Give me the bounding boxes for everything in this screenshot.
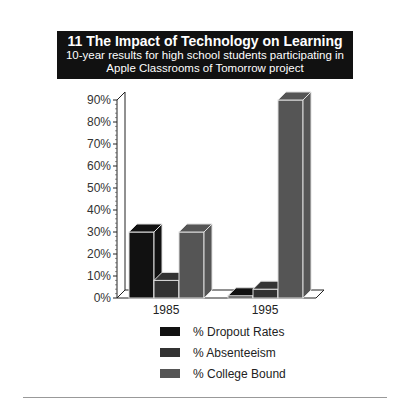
legend-swatch <box>160 369 180 378</box>
y-tick-label: 40% <box>87 203 111 217</box>
legend-label: % Absenteeism <box>193 346 276 360</box>
legend-label: % College Bound <box>193 367 286 381</box>
y-tick-label: 0% <box>94 291 112 305</box>
bar-chart: 0%10%20%30%40%50%60%70%80%90%19851995% D… <box>0 0 409 401</box>
y-tick-label: 70% <box>87 137 111 151</box>
x-tick-label: 1985 <box>153 303 180 317</box>
y-tick-label: 80% <box>87 115 111 129</box>
y-tick-label: 50% <box>87 181 111 195</box>
legend-label: % Dropout Rates <box>193 325 284 339</box>
legend-swatch <box>160 327 180 336</box>
y-tick-label: 10% <box>87 269 111 283</box>
legend-swatch <box>160 348 180 357</box>
bar <box>179 232 204 298</box>
bar <box>278 100 303 298</box>
bottom-divider <box>23 397 387 398</box>
y-tick-label: 90% <box>87 93 111 107</box>
bar <box>154 280 179 298</box>
bar <box>129 232 154 298</box>
bar <box>253 289 278 298</box>
y-tick-label: 20% <box>87 247 111 261</box>
y-tick-label: 30% <box>87 225 111 239</box>
y-tick-label: 60% <box>87 159 111 173</box>
x-tick-label: 1995 <box>252 303 279 317</box>
